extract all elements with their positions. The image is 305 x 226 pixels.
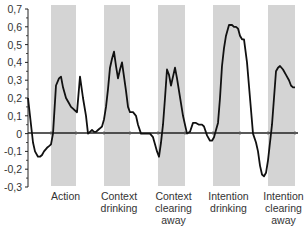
- line-chart: 0,70,60,50,40,30,20,10-0,1-0,2-0,3 Actio…: [0, 0, 305, 226]
- category-labels: ActionContextdrinkingContextclearingaway…: [51, 190, 304, 226]
- category-label-3: Contextclearingaway: [155, 190, 192, 226]
- category-label-5: Intentionclearingaway: [263, 190, 303, 226]
- y-tick-label: -0,2: [4, 163, 22, 175]
- shaded-band-3: [158, 5, 185, 186]
- y-tick-label: 0,3: [7, 74, 22, 86]
- y-tick-label: 0,4: [7, 56, 22, 68]
- y-tick-label: 0,7: [7, 3, 22, 15]
- category-label-2: Contextdrinking: [101, 190, 138, 214]
- category-label-4: Intentiondrinking: [208, 190, 248, 214]
- y-tick-label: 0,2: [7, 92, 22, 104]
- y-tick-label: 0,5: [7, 39, 22, 51]
- y-tick-label: -0,1: [4, 145, 22, 157]
- y-tick-label: 0,6: [7, 21, 22, 33]
- y-tick-label: 0,1: [7, 110, 22, 122]
- y-axis: 0,70,60,50,40,30,20,10-0,1-0,2-0,3: [4, 3, 28, 193]
- y-tick-label: 0: [16, 128, 22, 140]
- y-tick-label: -0,3: [4, 181, 22, 193]
- category-label-1: Action: [51, 190, 80, 202]
- shaded-band-5: [268, 5, 295, 186]
